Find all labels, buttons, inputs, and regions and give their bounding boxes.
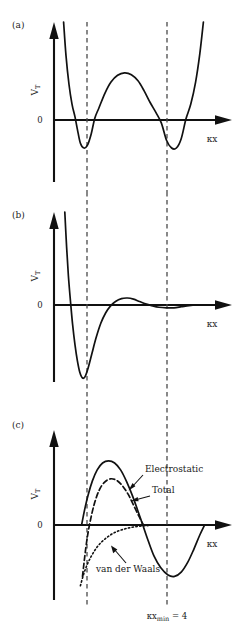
- electrostatic-label: Electrostatic: [145, 464, 203, 474]
- panel-c-x-axis-label: κx: [207, 539, 218, 549]
- panel-b-x-axis-label: κx: [207, 319, 218, 329]
- kappa-x-min-tail: = 4: [169, 611, 187, 621]
- kappa-x-min-sub: min: [157, 615, 169, 623]
- panel-c-y-label-sub: T: [34, 488, 42, 493]
- panel-b-label: (b): [12, 210, 25, 220]
- panel-b-zero-label: 0: [37, 300, 42, 310]
- potential-energy-figure: (a) 0 VT κx (b) 0 VT κ: [0, 0, 242, 634]
- panel-c-label: (c): [12, 420, 24, 430]
- total-label: Total: [152, 485, 175, 495]
- panel-b-y-label-sub: T: [34, 270, 42, 275]
- panel-a-x-axis-label: κx: [207, 134, 218, 144]
- panel-a-zero-label: 0: [37, 115, 42, 125]
- panel-a-label: (a): [12, 20, 24, 30]
- van-der-waals-label: van der Waals: [95, 564, 160, 574]
- kappa-x-min-main: κx: [147, 611, 157, 621]
- panel-c-zero-label: 0: [37, 520, 42, 530]
- panel-a-y-label-sub: T: [34, 84, 42, 89]
